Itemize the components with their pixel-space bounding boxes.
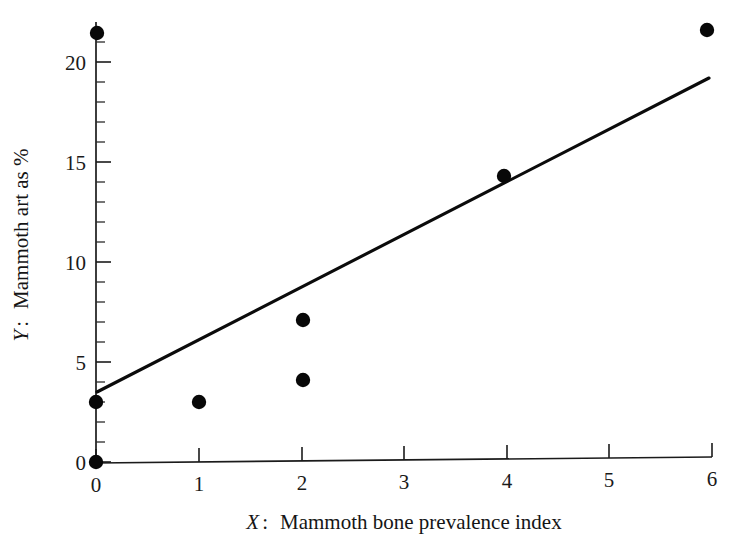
plot-canvas: 0 5 10 15 20 0 1 2 3 4 5 6 (0, 0, 740, 554)
y-axis-tick-labels: 0 5 10 15 20 (65, 51, 86, 475)
y-axis-title: Y:Mammoth art as % (9, 149, 33, 342)
data-point (89, 395, 103, 409)
y-tick-label-15: 15 (65, 151, 86, 175)
data-points (89, 23, 714, 469)
y-axis-title-variable: Y (9, 327, 33, 341)
x-tick-label-3: 3 (399, 470, 410, 494)
x-tick-label-4: 4 (502, 469, 513, 493)
x-tick-label-1: 1 (194, 472, 205, 496)
y-tick-label-10: 10 (65, 251, 86, 275)
x-axis-title: X:Mammoth bone prevalence index (245, 510, 562, 534)
data-point (700, 23, 714, 37)
x-axis-tick-labels: 0 1 2 3 4 5 6 (91, 467, 718, 497)
x-tick-label-5: 5 (604, 468, 615, 492)
data-point (296, 373, 310, 387)
x-axis-ticks (96, 443, 712, 463)
y-tick-label-20: 20 (65, 51, 86, 75)
data-point (90, 26, 104, 40)
data-point (497, 169, 511, 183)
data-point (89, 455, 103, 469)
scatter-plot-figure: 0 5 10 15 20 0 1 2 3 4 5 6 (0, 0, 740, 554)
y-tick-label-0: 0 (76, 451, 87, 475)
x-tick-label-0: 0 (91, 473, 102, 497)
regression-line (97, 78, 709, 392)
x-tick-label-6: 6 (707, 467, 718, 491)
x-axis-title-text: Mammoth bone prevalence index (280, 510, 562, 534)
y-axis-title-text: Mammoth art as % (9, 149, 33, 309)
data-point (296, 313, 310, 327)
x-axis-title-variable: X (245, 510, 260, 534)
y-tick-label-5: 5 (76, 351, 87, 375)
data-point (192, 395, 206, 409)
x-tick-label-2: 2 (297, 471, 308, 495)
